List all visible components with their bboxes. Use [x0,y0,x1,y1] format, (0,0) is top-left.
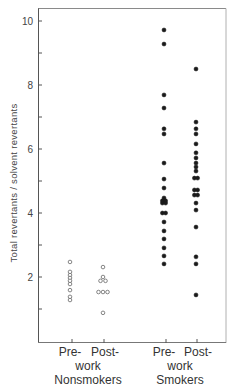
open-circle-marker [104,279,108,283]
y-axis-label: Total revertants / solvent revertants [8,104,19,263]
filled-circle-marker [194,132,198,136]
x-tick-label-work: work [74,359,101,373]
open-circle-marker [68,260,72,264]
filled-circle-marker [162,186,166,190]
open-circle-marker [106,290,110,294]
filled-circle-marker [194,151,198,155]
x-tick-label: Post- [91,345,119,359]
filled-circle-marker [162,93,166,97]
filled-circle-marker [194,225,198,229]
filled-circle-marker [194,262,198,266]
filled-circle-marker [194,255,198,259]
filled-circle-marker [162,42,166,46]
filled-circle-marker [162,229,166,233]
open-circle-marker [101,311,105,315]
filled-circle-marker [162,106,166,110]
y-tick-label: 6 [27,144,33,155]
filled-circle-marker [162,132,166,136]
filled-circle-marker [162,237,166,241]
open-circle-marker [97,290,101,294]
filled-circle-marker [164,201,168,205]
x-tick-label: Pre- [153,345,176,359]
group-label: Nonsmokers [54,373,121,387]
open-circle-marker [68,288,72,292]
y-tick-label: 2 [27,272,33,283]
filled-circle-marker [164,211,168,215]
x-axis-group-labels: workNonsmokersworkSmokers [54,359,203,387]
x-tick-label: Pre- [59,345,82,359]
x-axis-tick-labels: Pre-Post-Pre-Post- [59,345,212,359]
y-tick-label: 10 [22,16,34,27]
y-tick-label: 8 [27,80,33,91]
x-tick-label: Post- [184,345,212,359]
filled-circle-marker [194,201,198,205]
filled-circle-marker [196,193,200,197]
filled-circle-marker [162,262,166,266]
y-axis-tick-labels: 246810 [22,16,34,283]
filled-circle-marker [194,120,198,124]
filled-circle-marker [162,127,166,131]
group-label: Smokers [156,373,203,387]
filled-circle-marker [194,165,198,169]
filled-circle-marker [194,161,198,165]
filled-circle-marker [194,293,198,297]
x-tick-label-work: work [166,359,193,373]
filled-circle-marker [194,169,198,173]
open-circle-marker [101,290,105,294]
open-circle-marker [99,279,103,283]
filled-circle-marker [162,220,166,224]
filled-circle-marker [196,176,200,180]
open-circle-marker [68,298,72,302]
filled-circle-marker [162,177,166,181]
filled-circle-marker [162,28,166,32]
plot-frame [38,9,226,344]
open-circle-marker [68,282,72,286]
scatter-chart: 246810 Total revertants / solvent revert… [0,0,237,392]
filled-circle-marker [162,161,166,165]
filled-circle-marker [162,246,166,250]
data-points [68,28,199,315]
filled-circle-marker [194,156,198,160]
filled-circle-marker [162,254,166,258]
open-circle-marker [101,275,105,279]
y-tick-label: 4 [27,208,33,219]
filled-circle-marker [194,127,198,131]
filled-circle-marker [194,67,198,71]
filled-circle-marker [194,142,198,146]
open-circle-marker [101,265,105,269]
filled-circle-marker [196,188,200,192]
filled-circle-marker [194,208,198,212]
